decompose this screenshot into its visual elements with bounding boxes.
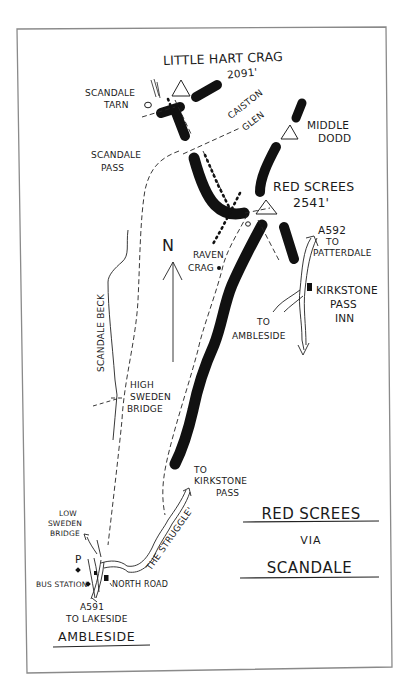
middle-dodd-label-2: DODD — [318, 133, 351, 144]
ridge-route — [161, 85, 302, 464]
low-sweden-bridge-label-1: LOW — [48, 510, 88, 518]
low-sweden-bridge-label-3: BRIDGE — [40, 530, 90, 538]
high-sweden-bridge-label-3: BRIDGE — [127, 405, 163, 414]
map-title-line-2: VIA — [243, 534, 379, 547]
to-kirkstone-label-3: PASS — [216, 489, 239, 498]
scandale-beck-label: SCANDALE BECK — [97, 294, 106, 372]
patterdale-label: PATTERDALE — [313, 249, 372, 258]
raven-crag-point — [217, 266, 221, 270]
parking-label: P — [75, 554, 82, 565]
a591-label: A591 — [80, 603, 104, 612]
north-label: N — [162, 238, 175, 255]
north-arrow — [163, 262, 182, 362]
small-tarn — [246, 222, 251, 226]
ambleside-centre-marker — [94, 571, 97, 575]
to-lakeside-label: TO LAKESIDE — [66, 615, 128, 624]
map-title-line-1: RED SCREES — [243, 505, 379, 523]
kirkstone-inn-label-3: INN — [335, 313, 354, 324]
ambleside-town-label: AMBLESIDE — [58, 630, 135, 643]
scandale-tarn-label-1: SCANDALE — [85, 89, 135, 98]
summit-triangle-red-screes — [256, 200, 277, 214]
to-ambleside-label-1: TO — [257, 318, 270, 327]
summit-triangle-little-hart-crag — [172, 80, 190, 96]
north-road-label: NORTH ROAD — [112, 581, 168, 589]
low-sweden-bridge-label-2: SWEDEN — [40, 520, 90, 528]
bus-station-label: BUS STATION — [36, 581, 88, 589]
scandale-pass-label-1: SCANDALE — [91, 151, 141, 160]
ambleside-roads — [84, 534, 104, 602]
a592-to-label: TO — [326, 238, 339, 247]
raven-crag-label-1: RAVEN — [193, 251, 224, 260]
kirkstone-inn-building — [307, 283, 312, 291]
scandale-tarn-label-2: TARN — [104, 101, 129, 110]
high-sweden-bridge-mark — [93, 398, 122, 406]
high-sweden-bridge-label-1: HIGH — [130, 381, 154, 390]
map-title-line-3: SCANDALE — [240, 559, 379, 577]
map-drawing — [0, 0, 408, 695]
to-ambleside-label-2: AMBLESIDE — [232, 332, 286, 341]
middle-dodd-label-1: MIDDLE — [307, 120, 349, 131]
scandale-beck-stream — [108, 230, 128, 440]
to-kirkstone-label-1: TO — [194, 466, 207, 475]
tarn-streams — [151, 79, 160, 98]
ambleside-underline — [53, 645, 150, 647]
to-kirkstone-label-2: KIRKSTONE — [194, 477, 247, 486]
red-screes-height: 2541' — [293, 196, 329, 209]
scandale-tarn — [145, 102, 152, 108]
red-screes-label: RED SCREES — [273, 180, 354, 193]
dotted-footpath — [168, 99, 240, 244]
north-road-building — [104, 575, 109, 581]
parking-marker — [75, 567, 81, 573]
title-underline-2 — [240, 577, 379, 578]
scandale-pass-label-2: PASS — [101, 164, 124, 173]
kirkstone-inn-label-1: KIRKSTONE — [316, 285, 378, 296]
a592-label: A592 — [318, 225, 346, 236]
raven-crag-label-2: CRAG — [188, 264, 214, 273]
summit-triangle-middle-dodd — [281, 125, 298, 139]
kirkstone-inn-label-2: PASS — [330, 299, 357, 310]
high-sweden-bridge-label-2: SWEDEN — [130, 393, 171, 402]
